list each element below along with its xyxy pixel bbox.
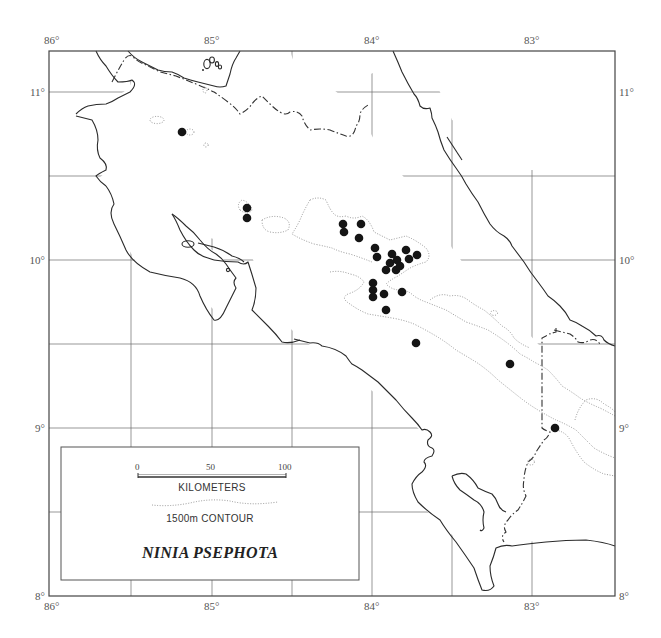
longitude-label: 84°: [364, 34, 379, 46]
locality-dot: [178, 128, 187, 137]
locality-dot: [551, 424, 560, 433]
latitude-label: 11°: [30, 86, 45, 98]
locality-dot: [398, 288, 407, 297]
distribution-map: 86°85°84°83°86°85°84°83°11°10°9°8°11°10°…: [0, 0, 661, 638]
locality-dot: [413, 251, 422, 260]
scale-tick-100: 100: [278, 462, 292, 472]
longitude-label: 84°: [364, 600, 379, 612]
locality-dot: [243, 204, 252, 213]
longitude-label: 86°: [44, 34, 59, 46]
latitude-label: 10°: [619, 254, 634, 266]
locality-dot: [405, 255, 414, 264]
contour-legend-label: 1500m CONTOUR: [166, 513, 254, 524]
longitude-label: 85°: [204, 34, 219, 46]
locality-dot: [380, 290, 389, 299]
locality-dot: [243, 214, 252, 223]
legend: 0 50 100 KILOMETERS 1500m CONTOUR NINIA …: [61, 447, 359, 580]
longitude-label: 86°: [44, 600, 59, 612]
latitude-label: 8°: [35, 590, 45, 602]
locality-dot: [339, 220, 348, 229]
locality-dot: [340, 228, 349, 237]
locality-dot: [412, 339, 421, 348]
locality-dot: [355, 234, 364, 243]
locality-dot: [382, 266, 391, 275]
species-title: NINIA PSEPHOTA: [141, 544, 278, 561]
scale-tick-50: 50: [206, 462, 216, 472]
scale-tick-0: 0: [135, 462, 140, 472]
latitude-label: 11°: [619, 86, 634, 98]
longitude-label: 83°: [524, 34, 539, 46]
longitude-label: 85°: [204, 600, 219, 612]
locality-dot: [396, 262, 405, 271]
locality-dot: [373, 253, 382, 262]
locality-dot: [369, 293, 378, 302]
locality-dot: [506, 360, 515, 369]
locality-dot: [382, 306, 391, 315]
longitude-label: 83°: [524, 600, 539, 612]
latitude-label: 8°: [619, 590, 629, 602]
latitude-label: 9°: [619, 422, 629, 434]
scale-unit-label: KILOMETERS: [178, 482, 245, 493]
locality-dot: [357, 220, 366, 229]
latitude-label: 9°: [35, 422, 45, 434]
locality-dot: [371, 244, 380, 253]
locality-dot: [402, 246, 411, 255]
latitude-label: 10°: [30, 254, 45, 266]
